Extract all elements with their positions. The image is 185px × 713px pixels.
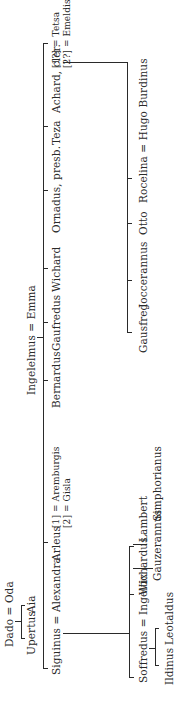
sibling-line	[127, 62, 128, 333]
child-tick	[129, 594, 134, 595]
child-tick	[155, 628, 159, 629]
child-tick	[127, 280, 132, 281]
person-arleus: Arleus	[50, 526, 62, 561]
person-teza: Teza	[50, 120, 62, 145]
person-leotaldus: Leotaldus	[163, 592, 175, 645]
child-tick	[43, 668, 48, 669]
person-aia: Aia	[25, 595, 37, 613]
sibling-line	[155, 628, 156, 666]
couple-dado-oda: Dado = Oda	[3, 581, 15, 647]
genealogy-diagram: Dado = Oda Upertus Aia Ingelelmus = Emma…	[0, 0, 185, 713]
person-wichard: Wichard	[50, 247, 62, 292]
child-tick	[43, 190, 48, 191]
child-tick	[127, 178, 132, 179]
person-joccerannus: Joccerannus	[137, 241, 149, 308]
descent-line	[63, 633, 129, 634]
person-simphorianus: Simphorianus	[151, 446, 163, 521]
child-tick	[43, 542, 48, 543]
descent-line	[133, 568, 153, 569]
person-gaufredus: Gaufredus	[50, 295, 62, 351]
child-tick	[155, 665, 159, 666]
child-tick	[129, 677, 134, 678]
child-tick	[43, 43, 48, 44]
achard-spouse-1: [1?] = Tetsa	[51, 12, 61, 68]
child-tick	[127, 223, 132, 224]
person-gausfred: Gausfred	[137, 304, 149, 353]
person-wichardus: Wichardus	[137, 537, 149, 595]
child-tick	[127, 332, 132, 333]
sibling-line	[129, 546, 130, 678]
person-ildinus: Ildinus	[163, 648, 175, 685]
person-upertus: Upertus	[25, 611, 37, 655]
achard-spouse-2: [2?] = Emeldis	[62, 0, 72, 68]
person-lambert: Lambert	[137, 496, 149, 542]
child-tick	[43, 268, 48, 269]
arleus-spouse-1: [1] = Aremburgis	[51, 447, 61, 528]
person-otto: Otto	[137, 211, 149, 235]
couple-rocelina-hugo: Rocelina = Hugo Burdinus	[137, 58, 149, 203]
child-tick	[43, 380, 48, 381]
person-bernardus: Bernardus	[50, 351, 62, 408]
child-tick	[43, 126, 48, 127]
child-tick	[129, 546, 134, 547]
sibling-line	[43, 44, 44, 669]
couple-ingelelmus-emma: Ingelelmus = Emma	[25, 285, 37, 395]
descent-line	[63, 62, 127, 63]
separator-line	[133, 544, 147, 545]
person-ornadus: Ornadus, presb.	[50, 146, 62, 233]
arleus-spouse-2: [2] = Gisla	[62, 478, 72, 528]
sibling-line	[21, 605, 22, 639]
couple-siguinus-alexandra: Siguinus = Alexandra	[50, 557, 62, 675]
child-tick	[43, 322, 48, 323]
